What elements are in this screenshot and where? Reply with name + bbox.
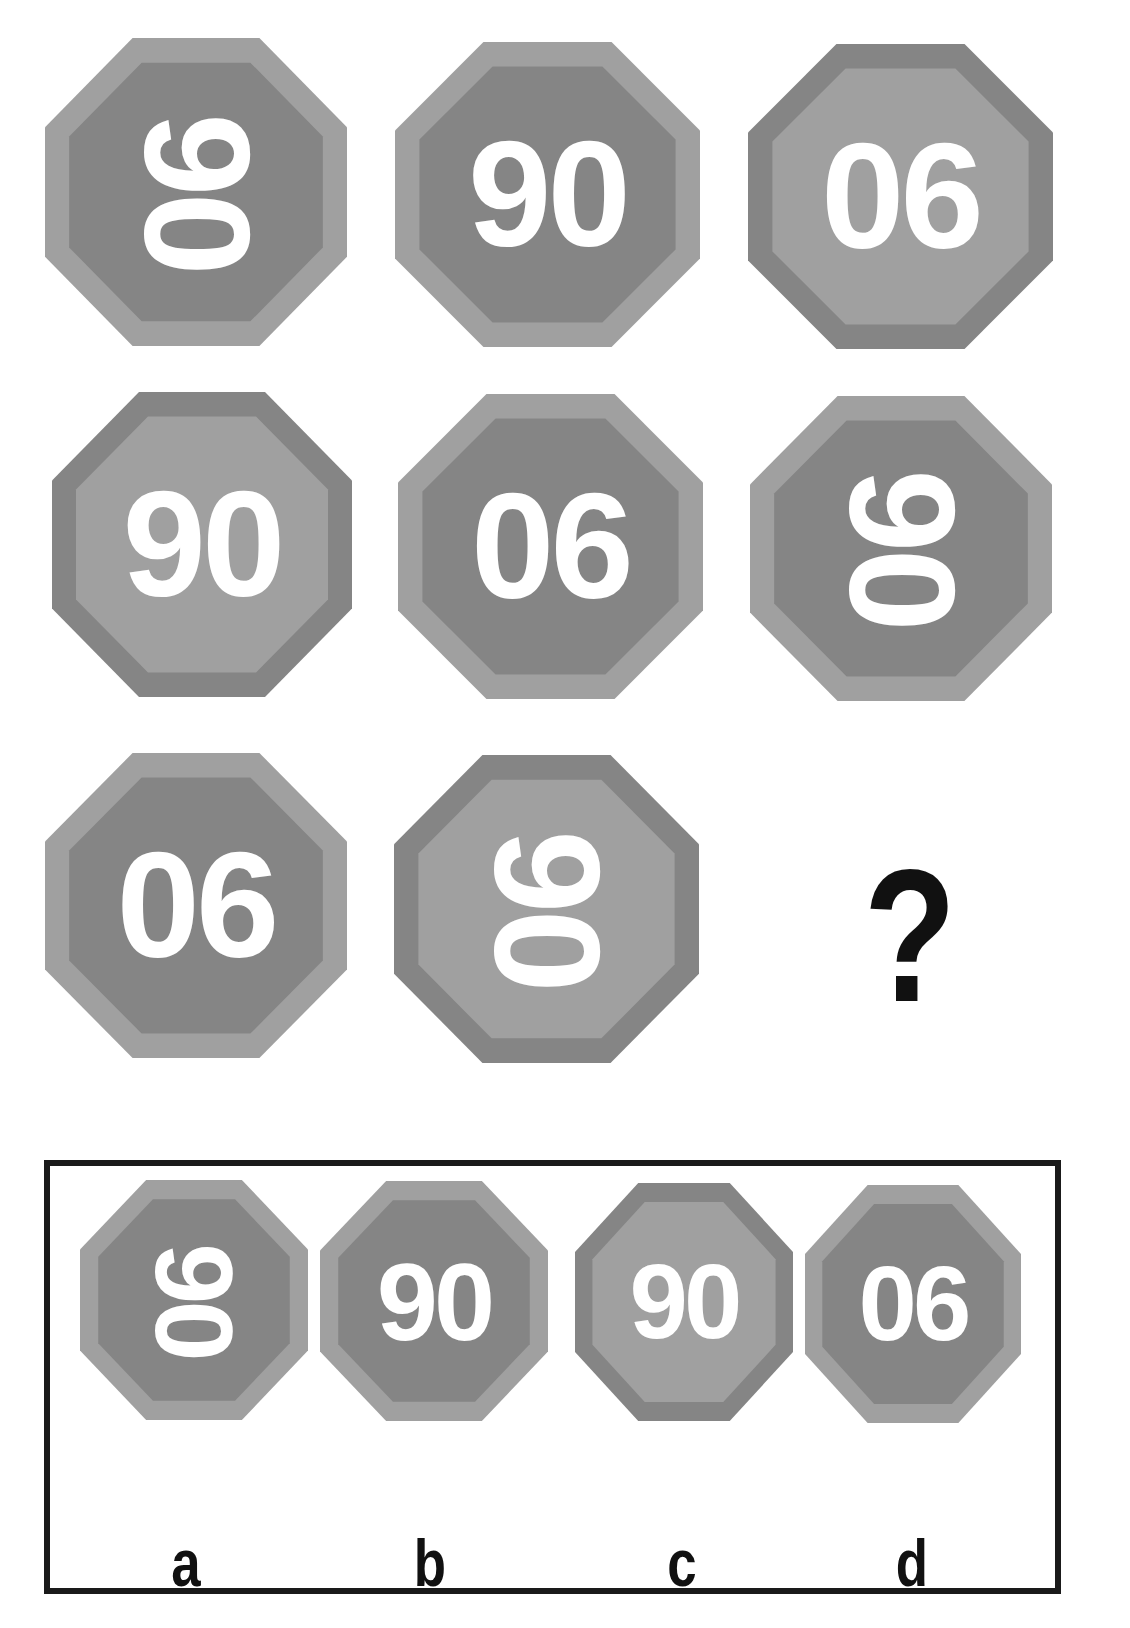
octagon-number: 90 [630, 1242, 739, 1362]
octagon-number: 90 [460, 830, 633, 989]
option-d-label[interactable]: d [880, 1525, 944, 1601]
option-a-octagon[interactable]: 90 [80, 1180, 308, 1420]
option-b-octagon[interactable]: 90 [320, 1181, 548, 1421]
octagon-number: 90 [109, 113, 282, 272]
option-d-octagon[interactable]: 06 [805, 1185, 1021, 1423]
option-c-label[interactable]: c [650, 1525, 714, 1601]
grid-octagon-r2c1: 90 [52, 392, 352, 697]
octagon-number: 90 [123, 458, 282, 631]
octagon-number: 90 [377, 1238, 491, 1365]
octagon-number: 06 [859, 1244, 968, 1364]
option-a-label[interactable]: a [154, 1525, 218, 1601]
octagon-number: 06 [117, 819, 276, 992]
option-c-octagon[interactable]: 90 [575, 1183, 793, 1421]
octagon-number: 90 [130, 1243, 257, 1357]
grid-octagon-r1c3: 06 [748, 44, 1053, 349]
grid-octagon-r2c3: 90 [750, 396, 1052, 701]
octagon-number: 90 [814, 469, 987, 628]
grid-octagon-r2c2: 06 [398, 394, 703, 699]
octagon-number: 90 [468, 108, 627, 281]
grid-octagon-r1c2: 90 [395, 42, 700, 347]
grid-octagon-r3c1: 06 [45, 753, 347, 1058]
octagon-number: 06 [821, 110, 980, 283]
grid-octagon-r3c2: 90 [394, 755, 699, 1063]
octagon-number: 06 [471, 460, 630, 633]
option-b-label[interactable]: b [398, 1525, 462, 1601]
missing-item-question-mark: ? [862, 855, 958, 1015]
grid-octagon-r1c1: 90 [45, 38, 347, 346]
